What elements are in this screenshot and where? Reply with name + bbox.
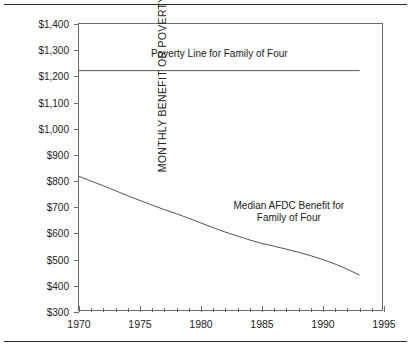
y-tick-label: $1,400	[23, 19, 69, 30]
y-tick-label: $1,100	[23, 97, 69, 108]
chart-figure: MONTHLY BENEFIT OR POVERTY LINE $1,400$1…	[0, 0, 411, 355]
x-tick-mark-major	[384, 306, 385, 312]
x-tick-label: 1975	[118, 318, 162, 330]
poverty-line-annotation: Poverty Line for Family of Four	[151, 48, 288, 60]
y-tick-label: $700	[23, 202, 69, 213]
afdc-benefit-series	[79, 176, 360, 275]
afdc-annotation-line1: Median AFDC Benefit for	[234, 200, 345, 212]
x-tick-label: 1990	[301, 318, 345, 330]
y-tick-mark	[74, 312, 79, 313]
x-tick-label: 1995	[362, 318, 406, 330]
plot-area: MONTHLY BENEFIT OR POVERTY LINE $1,400$1…	[78, 23, 383, 311]
afdc-annotation-line2: Family of Four	[234, 212, 345, 224]
y-tick-label: $500	[23, 254, 69, 265]
y-tick-label: $300	[23, 307, 69, 318]
top-divider-rule	[4, 4, 407, 5]
y-tick-label: $800	[23, 176, 69, 187]
y-tick-label: $1,000	[23, 123, 69, 134]
y-tick-label: $400	[23, 280, 69, 291]
x-tick-label: 1970	[57, 318, 101, 330]
x-tick-label: 1985	[240, 318, 284, 330]
afdc-line-annotation: Median AFDC Benefit for Family of Four	[234, 200, 345, 224]
y-tick-label: $1,300	[23, 45, 69, 56]
poverty-line-annotation-text: Poverty Line for Family of Four	[151, 48, 288, 59]
series-lines-layer	[79, 24, 384, 312]
x-tick-label: 1980	[179, 318, 223, 330]
y-tick-label: $900	[23, 149, 69, 160]
bottom-divider-rule	[4, 341, 407, 342]
y-tick-label: $600	[23, 228, 69, 239]
y-tick-label: $1,200	[23, 71, 69, 82]
